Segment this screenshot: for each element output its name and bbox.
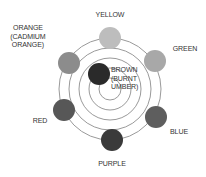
orange-swatch xyxy=(58,52,80,74)
label-red: RED xyxy=(29,117,50,126)
color-nodes xyxy=(53,27,167,151)
purple-swatch xyxy=(101,129,123,151)
label-brown-line3: UMBER) xyxy=(111,83,143,92)
red-swatch xyxy=(53,99,75,121)
concentric-rings xyxy=(59,38,161,140)
label-yellow: YELLOW xyxy=(91,11,130,20)
ring-1 xyxy=(59,38,161,140)
label-orange-line3: ORANGE) xyxy=(5,41,51,50)
label-blue: BLUE xyxy=(166,128,192,137)
label-orange: ORANGE (CADMIUM ORANGE) xyxy=(5,24,51,50)
label-purple: PURPLE xyxy=(94,160,129,169)
green-swatch xyxy=(144,50,166,72)
yellow-swatch xyxy=(99,27,121,49)
blue-swatch xyxy=(145,106,167,128)
label-brown: BROWN (BURNT UMBER) xyxy=(111,66,143,92)
brown-swatch xyxy=(88,63,110,85)
label-green: GREEN xyxy=(167,45,202,54)
